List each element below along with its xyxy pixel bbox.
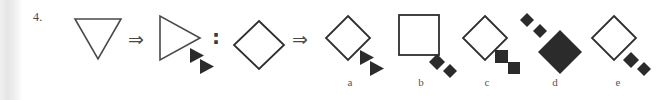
satellite-triangle-2 [200,59,214,74]
item-number: 4. [33,10,42,25]
option-label-e: e [608,76,628,88]
satellite-diamond-1 [429,54,445,70]
option-e-icon [588,12,654,76]
option-e-figure[interactable] [588,12,654,76]
satellite-square-1 [495,50,508,63]
option-c-icon [459,12,523,76]
option-label-d: d [545,76,565,88]
analog-source-figure [232,18,288,72]
analogy-exercise: 4. ⇒ : ⇒ a [0,0,671,100]
option-a-icon [322,12,386,76]
satellite-diamond-2 [637,62,651,76]
option-d-figure[interactable] [515,8,585,78]
option-label-a: a [340,76,360,88]
proportion-colon: : [212,27,220,47]
satellite-triangle-2 [370,61,384,76]
option-c-figure[interactable] [459,12,523,76]
implication-arrow-1: ⇒ [128,30,144,49]
option-label-c: c [477,76,497,88]
triangle-right-outline-icon [156,12,216,74]
option-b-icon [396,12,460,76]
satellite-diamond-1 [520,13,534,27]
option-d-icon [515,8,585,78]
option-label-b: b [411,76,431,88]
triangle-down-outline-icon [72,16,124,62]
implication-arrow-2: ⇒ [292,30,308,49]
scanned-page-edge [0,0,22,100]
satellite-diamond-2 [443,64,457,78]
diamond-outline-icon [232,18,288,72]
main-diamond-solid [538,30,582,74]
stem-target-figure [156,12,216,74]
option-b-figure[interactable] [396,12,460,76]
stem-source-figure [72,16,124,62]
satellite-diamond-2 [533,24,547,38]
option-a-figure[interactable] [322,12,386,76]
satellite-diamond-1 [623,52,639,68]
